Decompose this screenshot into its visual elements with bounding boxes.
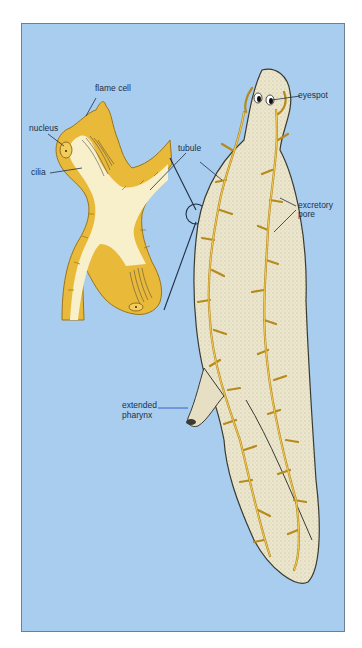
flame-cell-inset [56, 102, 172, 320]
label-eyespot: eyespot [298, 91, 328, 101]
label-extended-pharynx-line2: pharynx [122, 411, 152, 421]
label-excretory-pore-line2: pore [298, 210, 315, 220]
label-tubule: tubule [178, 144, 201, 154]
label-flame-cell: flame cell [95, 84, 131, 94]
planarian-body [186, 69, 319, 583]
label-cilia: cilia [31, 168, 46, 178]
label-nucleus: nucleus [29, 124, 58, 134]
